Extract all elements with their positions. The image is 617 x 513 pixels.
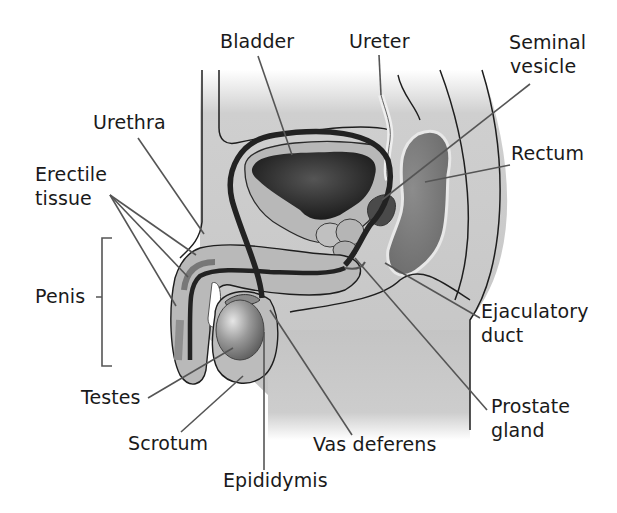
reproductive-diagram: Bladder Ureter Seminal vesicle Urethra R… xyxy=(0,0,617,513)
label-urethra: Urethra xyxy=(93,112,166,133)
label-seminal-vesicle-line2: vesicle xyxy=(510,56,576,77)
label-penis: Penis xyxy=(35,286,85,307)
label-rectum: Rectum xyxy=(511,143,584,164)
label-scrotum: Scrotum xyxy=(128,433,208,454)
label-seminal-vesicle-line1: Seminal xyxy=(509,32,586,53)
label-prostate-gland-line2: gland xyxy=(491,420,545,441)
label-prostate-gland-line1: Prostate xyxy=(491,396,570,417)
testis xyxy=(216,300,264,360)
label-vas-deferens: Vas deferens xyxy=(313,434,436,455)
label-ejaculatory-duct-line1: Ejaculatory xyxy=(481,301,589,322)
label-ureter: Ureter xyxy=(349,31,410,52)
label-erectile-tissue-line1: Erectile xyxy=(35,164,107,185)
penis-bracket xyxy=(96,238,112,366)
label-testes: Testes xyxy=(81,387,141,408)
label-epididymis: Epididymis xyxy=(223,470,328,491)
label-erectile-tissue-line2: tissue xyxy=(35,188,92,209)
label-ejaculatory-duct-line2: duct xyxy=(481,325,523,346)
label-bladder: Bladder xyxy=(220,31,294,52)
